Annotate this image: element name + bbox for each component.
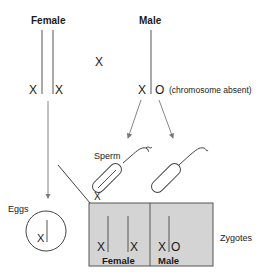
male-o-to-sperm-arrow bbox=[159, 100, 173, 138]
egg-cell bbox=[26, 211, 66, 251]
zygotes-label: Zygotes bbox=[220, 233, 253, 243]
sperm-x-head bbox=[90, 161, 124, 195]
female-chrom-label-2: X bbox=[55, 83, 63, 97]
chromosome-absent-note: (chromosome absent) bbox=[169, 85, 252, 95]
sperm-o-head bbox=[149, 161, 183, 195]
female-parent-label: Female bbox=[31, 15, 66, 26]
zygote-female-chrom-label-2: X bbox=[130, 240, 138, 254]
zygote-male-chrom-label-o: O bbox=[171, 240, 180, 254]
diagram-canvas: Female X X X Male X O (chromosome absent… bbox=[0, 0, 280, 279]
sperm-x-tail-end bbox=[146, 147, 152, 148]
egg-chrom-label: X bbox=[37, 232, 45, 244]
xo-sex-determination-diagram: Female X X X Male X O (chromosome absent… bbox=[0, 0, 280, 279]
sperm-o bbox=[149, 148, 208, 195]
zygote-female-chrom-label-1: X bbox=[97, 240, 105, 254]
female-chrom-label-1: X bbox=[29, 83, 37, 97]
zygote-female-label: Female bbox=[102, 255, 135, 266]
male-chrom-label-o: O bbox=[155, 83, 164, 97]
zygote-male-label: Male bbox=[158, 255, 179, 266]
male-x-to-sperm-arrow bbox=[128, 100, 141, 138]
male-chrom-label-x: X bbox=[138, 83, 146, 97]
sperm-label: Sperm bbox=[94, 151, 121, 161]
egg-to-zygote-line bbox=[58, 165, 90, 203]
sperm-x-chromosome bbox=[98, 170, 116, 188]
sperm-o-tail bbox=[179, 148, 208, 165]
sperm-x-label: X bbox=[94, 191, 101, 202]
eggs-label: Eggs bbox=[8, 204, 29, 214]
cross-symbol: X bbox=[95, 55, 103, 69]
zygote-male-chrom-label-x: X bbox=[158, 240, 166, 254]
sperm-x-tail bbox=[123, 148, 149, 163]
male-parent-label: Male bbox=[139, 15, 162, 26]
